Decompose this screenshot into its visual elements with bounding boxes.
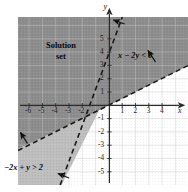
y-tick-label-1: 1 — [101, 89, 105, 96]
y-tick-label--5: -5 — [98, 169, 104, 176]
x-tick-label--2: -2 — [78, 108, 84, 115]
y-tick-label-2: 2 — [100, 75, 104, 82]
x-tick-label-1: 1 — [121, 108, 125, 115]
x-tick-label-2: 2 — [134, 108, 138, 115]
x-tick-label-3: 3 — [147, 108, 151, 115]
inequality-graph-figure: Solution set x − 2y < 0 −2x + y > 2 -6 -… — [0, 0, 188, 192]
solution-set-label: Solution set — [34, 41, 88, 62]
inequality-1-text: x − 2y < 0 — [118, 51, 152, 60]
solution-set-label-line2: set — [56, 52, 66, 61]
y-tick-label-4: 4 — [100, 49, 104, 56]
y-tick-label--3: -3 — [98, 142, 104, 149]
y-tick-label--4: -4 — [98, 155, 104, 162]
y-tick-label--1: -1 — [98, 115, 104, 122]
inequality-label-2: −2x + y > 2 — [4, 164, 43, 172]
x-tick-label--6: -6 — [25, 108, 31, 115]
x-axis-label: x — [178, 107, 182, 115]
x-tick-label--5: -5 — [38, 108, 44, 115]
y-tick-label-5: 5 — [100, 36, 104, 43]
y-tick-label--2: -2 — [98, 129, 104, 136]
x-tick-label-4: 4 — [160, 108, 164, 115]
solution-set-label-line1: Solution — [46, 41, 76, 50]
inequality-label-1: x − 2y < 0 — [118, 52, 152, 60]
inequality-2-text: −2x + y > 2 — [4, 163, 43, 172]
y-tick-label-3: 3 — [100, 62, 104, 69]
x-tick-label--4: -4 — [52, 108, 58, 115]
x-tick-label--3: -3 — [65, 108, 71, 115]
y-axis-label: y — [104, 3, 108, 11]
